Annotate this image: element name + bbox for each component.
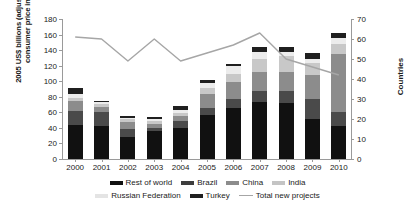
y-tick-label-right: 30	[357, 95, 381, 104]
y-tick-label-left: 60	[33, 108, 57, 117]
y-tick-label-right: 60	[357, 35, 381, 44]
y-tick-label-left: 180	[33, 15, 57, 24]
y-tick-label-left: 80	[33, 92, 57, 101]
y-tick-label-left: 140	[33, 46, 57, 55]
plot-area: 020406080100120140160180 010203040506070…	[62, 19, 352, 160]
y-tick-label-right: 20	[357, 115, 381, 124]
legend-line-swatch	[239, 195, 253, 196]
y-tick-label-left: 160	[33, 30, 57, 39]
legend-item[interactable]: China	[226, 178, 263, 187]
y-tick-label-right: 40	[357, 75, 381, 84]
legend-item[interactable]: Russian Federation	[95, 191, 180, 200]
legend-label: Rest of world	[126, 178, 173, 187]
legend-label: Turkey	[206, 191, 230, 200]
legend-label: China	[242, 178, 263, 187]
legend-color-swatch	[272, 181, 285, 185]
y-tick-label-right: 0	[357, 155, 381, 164]
line-path	[75, 33, 339, 75]
legend-label: Brazil	[197, 178, 217, 187]
y-tick-label-left: 40	[33, 123, 57, 132]
y-tick-label-right: 10	[357, 135, 381, 144]
legend-label: India	[288, 178, 305, 187]
legend-row-1: Rest of worldBrazilChinaIndia	[0, 176, 415, 189]
x-tick-label: 2010	[324, 163, 354, 172]
legend-item[interactable]: Brazil	[181, 178, 217, 187]
legend-color-swatch	[110, 181, 123, 185]
y-tick-label-left: 20	[33, 139, 57, 148]
y-axis-title-left: 2005 US$ billions (adjusted by US consum…	[14, 0, 33, 98]
legend-label: Russian Federation	[111, 191, 180, 200]
legend-item[interactable]: Total new projects	[239, 191, 320, 200]
y-tick-label-left: 0	[33, 155, 57, 164]
legend-row-2: Russian FederationTurkeyTotal new projec…	[0, 189, 415, 202]
legend-item[interactable]: Rest of world	[110, 178, 173, 187]
total-new-projects-line	[62, 19, 352, 160]
legend-color-swatch	[181, 181, 194, 185]
legend-item[interactable]: Turkey	[190, 191, 230, 200]
y-tick-label-right: 70	[357, 15, 381, 24]
legend-color-swatch	[95, 194, 108, 198]
chart-container: 2005 US$ billions (adjusted by US consum…	[0, 0, 415, 209]
y-tick-label-right: 50	[357, 55, 381, 64]
legend-color-swatch	[226, 181, 239, 185]
y-axis-title-right: Countries	[396, 42, 405, 112]
legend-item[interactable]: India	[272, 178, 305, 187]
chart-legend: Rest of worldBrazilChinaIndia Russian Fe…	[0, 176, 415, 202]
line-series-group	[62, 19, 352, 160]
y-tick-label-left: 120	[33, 61, 57, 70]
y-tick-label-left: 100	[33, 77, 57, 86]
legend-label: Total new projects	[256, 191, 320, 200]
legend-color-swatch	[190, 194, 203, 198]
